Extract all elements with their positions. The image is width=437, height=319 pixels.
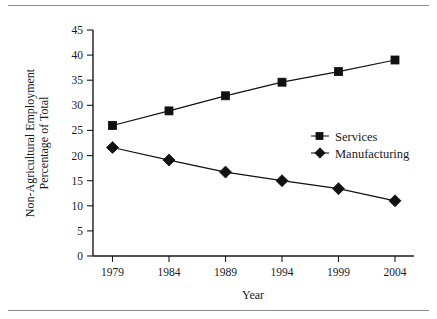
data-point-marker xyxy=(276,175,288,187)
bottom-divider-rule xyxy=(8,310,429,311)
top-divider-rule xyxy=(8,5,429,6)
y-axis-tick-labels: 45 40 35 30 25 20 15 10 5 0 xyxy=(72,24,84,262)
y-tick-label: 15 xyxy=(72,175,84,187)
x-axis-title: Year xyxy=(242,288,264,302)
legend-label-manufacturing: Manufacturing xyxy=(335,147,410,161)
x-tick-label: 1994 xyxy=(271,266,294,278)
data-point-marker xyxy=(335,68,343,76)
data-point-marker xyxy=(222,92,230,100)
x-tick-label: 2004 xyxy=(384,266,407,278)
y-tick-label: 20 xyxy=(72,150,84,162)
x-tick-label: 1999 xyxy=(327,266,350,278)
y-tick-label: 25 xyxy=(72,124,84,136)
y-tick-label: 30 xyxy=(72,99,84,111)
x-axis-ticks xyxy=(113,256,396,262)
y-axis-title-line-2: Non-Agricultural Employment xyxy=(23,68,37,217)
y-tick-label: 35 xyxy=(72,74,84,86)
y-axis-title: Percentage of Total Non-Agricultural Emp… xyxy=(23,68,51,217)
series-services xyxy=(109,56,400,130)
data-point-marker xyxy=(278,78,286,86)
services-line xyxy=(113,60,396,126)
data-point-marker xyxy=(391,56,399,64)
data-point-marker xyxy=(220,166,232,178)
y-tick-label: 5 xyxy=(77,225,83,237)
x-axis-tick-labels: 1979 1984 1989 1994 1999 2004 xyxy=(101,266,407,278)
data-point-marker xyxy=(389,195,401,207)
data-point-marker xyxy=(163,154,175,166)
data-point-marker xyxy=(165,107,173,115)
y-axis-ticks xyxy=(87,30,93,256)
y-tick-label: 45 xyxy=(72,24,84,36)
data-point-marker xyxy=(333,183,345,195)
chart-svg: 45 40 35 30 25 20 15 10 5 0 1979 1984 19… xyxy=(0,8,437,308)
y-tick-label: 40 xyxy=(72,49,84,61)
data-point-marker xyxy=(109,122,117,130)
x-tick-label: 1979 xyxy=(101,266,124,278)
legend-square-icon xyxy=(316,133,323,140)
legend-item-manufacturing[interactable]: Manufacturing xyxy=(311,147,410,161)
y-tick-label: 0 xyxy=(77,250,83,262)
x-tick-label: 1989 xyxy=(214,266,237,278)
y-axis-title-line-1: Percentage of Total xyxy=(37,96,51,190)
chart-legend: Services Manufacturing xyxy=(311,130,410,161)
legend-item-services[interactable]: Services xyxy=(311,130,377,144)
line-chart-figure: 45 40 35 30 25 20 15 10 5 0 1979 1984 19… xyxy=(0,8,437,308)
y-tick-label: 10 xyxy=(72,200,84,212)
legend-label-services: Services xyxy=(335,130,377,144)
x-tick-label: 1984 xyxy=(158,266,181,278)
data-point-marker xyxy=(107,142,119,154)
legend-diamond-icon xyxy=(315,148,325,158)
